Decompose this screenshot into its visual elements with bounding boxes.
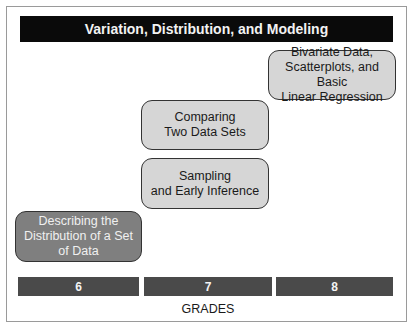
diagram-title: Variation, Distribution, and Modeling — [20, 16, 393, 42]
topic-line: Distribution of a Set — [24, 229, 133, 244]
topic-line: Two Data Sets — [164, 125, 245, 140]
topic-line: Sampling — [151, 169, 259, 184]
grade-8-bar: 8 — [276, 277, 393, 296]
topic-line: of Data — [24, 244, 133, 259]
topic-bivariate-data: Bivariate Data, Scatterplots, and Basic … — [268, 50, 396, 100]
grade-label: 6 — [75, 280, 82, 294]
grade-label: 7 — [205, 280, 212, 294]
topic-comparing-two-data-sets: Comparing Two Data Sets — [141, 100, 269, 150]
topic-sampling-early-inference: Sampling and Early Inference — [141, 158, 269, 209]
grade-label: 8 — [331, 280, 338, 294]
topic-line: Describing the — [24, 214, 133, 229]
topic-line: Comparing — [164, 110, 245, 125]
topic-describing-distribution: Describing the Distribution of a Set of … — [15, 211, 142, 262]
title-text: Variation, Distribution, and Modeling — [85, 21, 328, 37]
topic-line: Bivariate Data, — [269, 45, 395, 60]
grades-axis-label: GRADES — [140, 302, 276, 316]
grade-6-bar: 6 — [18, 277, 139, 296]
topic-line: and Early Inference — [151, 184, 259, 199]
topic-line: Linear Regression — [269, 90, 395, 105]
topic-line: Scatterplots, and Basic — [269, 60, 395, 90]
grade-7-bar: 7 — [144, 277, 272, 296]
